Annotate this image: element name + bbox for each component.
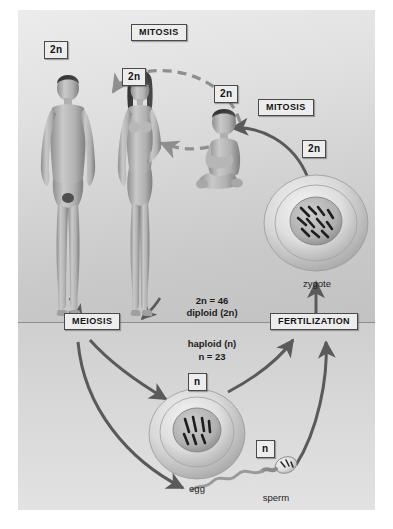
cell-label-zygote: zygote (286, 278, 348, 289)
label-fertilization: FERTILIZATION (270, 313, 358, 330)
cell-label-egg: egg (168, 483, 226, 494)
label-mitosis-top: MITOSIS (131, 24, 187, 41)
ploidy-tag-sperm: n (256, 440, 275, 458)
diploid-zone (18, 10, 375, 322)
life-cycle-diagram: MITOSIS MITOSIS MEIOSIS FERTILIZATION 2n… (18, 10, 375, 510)
haploid-label-text: haploid (n) (167, 338, 257, 351)
ploidy-tag-man: 2n (44, 41, 68, 59)
ploidy-tag-egg: n (188, 373, 207, 391)
ploidy-tag-woman: 2n (122, 68, 146, 86)
cell-label-sperm: sperm (246, 492, 306, 503)
ploidy-tag-zygote: 2n (302, 140, 326, 158)
label-mitosis-right: MITOSIS (258, 99, 314, 116)
haploid-count-text: n = 23 (167, 351, 257, 364)
diploid-count-text: 2n = 46 (167, 295, 257, 308)
diploid-label-text: diploid (2n) (167, 307, 257, 320)
ploidy-tag-child: 2n (214, 85, 238, 103)
label-meiosis: MEIOSIS (64, 313, 120, 330)
